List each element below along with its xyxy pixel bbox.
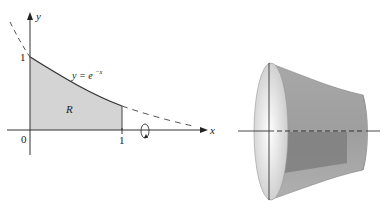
y-tick-label-one: 1 [20,51,26,63]
rotation-arrow-icon [141,124,149,138]
y-axis-arrow-icon [27,12,33,20]
y-axis-label: y [35,10,41,22]
region-label: R [65,103,73,115]
curve-equation-base: y = e [71,70,93,81]
origin-label: 0 [21,133,27,145]
solid-of-revolution [238,63,380,200]
solid-left-face [254,63,288,200]
curve-equation-exponent: −x [95,68,102,75]
region-r-fill [30,57,122,130]
curve-equation-label: y = e −x [71,68,102,81]
curve-dashed-right [122,106,193,126]
region-graph: y x 1 0 1 R y = e −x [7,10,215,155]
x-tick-label-one: 1 [119,134,125,146]
x-axis-label: x [209,124,215,136]
x-axis-arrow-icon [200,127,208,133]
figure-canvas: y x 1 0 1 R y = e −x [0,0,385,208]
